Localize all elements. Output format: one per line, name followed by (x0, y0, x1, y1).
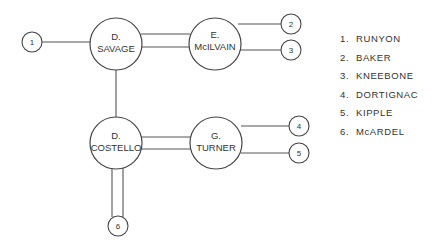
legend-item: 1.RUNYON (340, 30, 418, 49)
svg-text:2: 2 (289, 20, 294, 29)
svg-text:D.: D. (111, 31, 121, 42)
node-5: 5 (289, 143, 309, 163)
node-3: 3 (281, 40, 301, 60)
node-turner: G. TURNER (190, 117, 242, 169)
svg-text:4: 4 (297, 122, 302, 131)
legend-item: 3.KNEEBONE (340, 67, 418, 86)
svg-text:6: 6 (116, 222, 121, 231)
legend-item: 5.KIPPLE (340, 104, 418, 123)
node-1: 1 (22, 32, 42, 52)
svg-text:TURNER: TURNER (196, 142, 236, 153)
svg-text:E.: E. (211, 29, 220, 40)
legend-item: 6.McARDEL (340, 123, 418, 142)
node-6: 6 (108, 216, 128, 236)
node-savage: D. SAVAGE (90, 18, 142, 70)
svg-text:McILVAIN: McILVAIN (194, 41, 235, 52)
svg-text:SAVAGE: SAVAGE (97, 43, 135, 54)
node-4: 4 (289, 116, 309, 136)
svg-text:3: 3 (289, 46, 294, 55)
svg-text:COSTELLO: COSTELLO (91, 142, 142, 153)
node-costello: D. COSTELLO (90, 117, 142, 169)
svg-text:5: 5 (297, 149, 302, 158)
svg-text:1: 1 (30, 38, 35, 47)
legend-item: 2.BAKER (340, 49, 418, 68)
svg-text:D.: D. (111, 130, 121, 141)
node-mcilvain: E. McILVAIN (189, 18, 241, 70)
node-2: 2 (281, 14, 301, 34)
legend: 1.RUNYON 2.BAKER 3.KNEEBONE 4.DORTIGNAC … (340, 30, 418, 141)
svg-text:G.: G. (211, 130, 221, 141)
legend-item: 4.DORTIGNAC (340, 86, 418, 105)
